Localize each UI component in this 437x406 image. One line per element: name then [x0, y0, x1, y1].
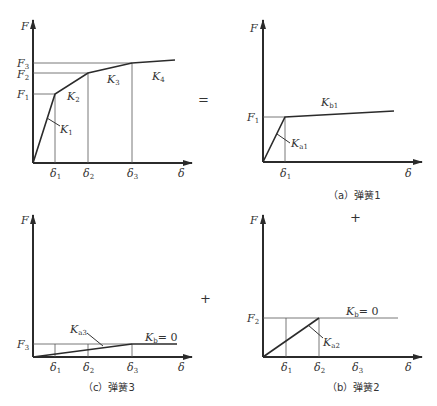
tick-delta1: δ1: [50, 361, 61, 375]
ka1-leader: [277, 134, 290, 143]
panel-c-spring-3: F δ F3 δ1 δ2 δ3 Ka3 Kb= 0 （c）弹簧3: [16, 214, 192, 393]
x-axis-label: δ: [178, 361, 185, 374]
tick-delta2: δ2: [314, 361, 325, 375]
tick-delta1: δ1: [280, 167, 291, 181]
x-axis-label: δ: [178, 167, 185, 180]
label-kb-zero: Kb= 0: [144, 331, 177, 345]
panel-a-spring-1: F δ F1 δ1 Ka1 Kb1 （a）弹簧1: [246, 20, 422, 201]
tick-delta2: δ2: [83, 167, 94, 181]
label-k4: K4: [151, 70, 165, 84]
tick-delta1: δ1: [50, 167, 61, 181]
tick-f1: F1: [16, 88, 29, 102]
label-k3: K3: [106, 73, 120, 87]
tick-delta3: δ3: [127, 361, 138, 375]
plus-sign-bottom: +: [200, 291, 211, 306]
label-ka2: Ka2: [322, 336, 340, 350]
tick-delta2: δ2: [83, 361, 94, 375]
panel-total: F δ F3 F2 F1 δ1 δ2 δ3 K1 K2 K3 K4: [16, 20, 192, 181]
spring-2-rise: [263, 318, 319, 357]
tick-f2: F2: [246, 312, 259, 326]
spring-1-curve: [263, 111, 394, 162]
x-axis-label: δ: [405, 361, 412, 374]
y-axis-label: F: [20, 214, 29, 227]
y-axis-label: F: [20, 20, 29, 33]
caption-b: （b）弹簧2: [327, 381, 380, 393]
label-k1: K1: [59, 123, 73, 137]
tick-delta3: δ3: [352, 361, 363, 375]
label-k2: K2: [66, 90, 80, 104]
label-ka1: Ka1: [290, 137, 308, 151]
tick-f3: F3: [16, 338, 29, 352]
tick-delta1: δ1: [281, 361, 292, 375]
tick-delta3: δ3: [127, 167, 138, 181]
label-ka3: Ka3: [69, 323, 87, 337]
y-axis-label: F: [249, 22, 258, 35]
x-axis-label: δ: [405, 167, 412, 180]
label-kb-zero: Kb= 0: [345, 305, 378, 319]
k1-leader: [47, 118, 60, 126]
panel-b-spring-2: F δ F2 δ1 δ2 δ3 Ka2 Kb= 0 （b）弹簧2: [246, 214, 422, 393]
plus-sign-right: +: [350, 210, 361, 225]
spring-decomposition-diagram: F δ F3 F2 F1 δ1 δ2 δ3 K1 K2 K3 K4 = F δ …: [0, 0, 437, 406]
ka2-leader: [308, 325, 323, 338]
tick-f1: F1: [246, 111, 259, 125]
caption-c: （c）弹簧3: [83, 381, 135, 393]
equals-sign: =: [198, 92, 209, 107]
label-kb1: Kb1: [320, 96, 338, 110]
y-axis-label: F: [249, 214, 258, 227]
guide-lines: [33, 63, 132, 163]
caption-a: （a）弹簧1: [328, 189, 381, 201]
